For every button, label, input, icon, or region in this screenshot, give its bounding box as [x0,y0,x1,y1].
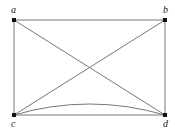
vertex-d [163,113,167,117]
vertex-c [12,113,16,117]
edges [14,20,165,115]
vertex-a [12,18,16,22]
vertex-label-d: d [163,118,169,129]
vertex-label-b: b [163,4,168,15]
graph-diagram: abcd [0,0,175,129]
edge-c-d-curved [14,104,165,115]
vertex-label-c: c [11,118,16,129]
vertex-label-a: a [11,4,16,15]
vertex-b [163,18,167,22]
